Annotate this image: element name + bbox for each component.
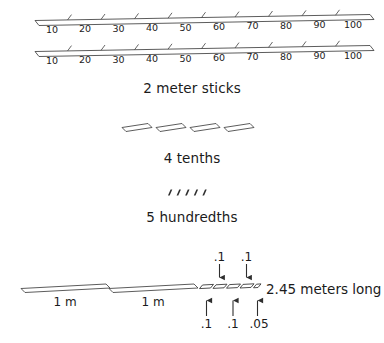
tick-label: 60 [213, 21, 225, 32]
measurement-result-label: 2.45 meters long [266, 281, 381, 297]
measurement-tenth-blocks-shape [200, 284, 262, 289]
hundredths-marks-shape [168, 190, 207, 196]
measurement-arrows-below [207, 301, 258, 317]
tick-label: 70 [246, 51, 258, 62]
arrow-above-label-1: .1 [214, 250, 225, 264]
meter-sticks-caption: 2 meter sticks [0, 80, 384, 96]
tick-label: 20 [79, 54, 91, 65]
measurement-figure: 10 20 30 40 50 60 70 80 90 100 10 20 30 … [0, 0, 384, 343]
tick-label: 10 [46, 55, 58, 66]
measurement-bar-2-shape [109, 284, 198, 293]
measurement-bar-1-label: 1 m [53, 295, 76, 309]
tick-label: 50 [179, 22, 191, 33]
tick-label: 20 [79, 23, 91, 34]
tick-label: 50 [179, 53, 191, 64]
tick-label: 70 [246, 20, 258, 31]
tick-label: 90 [313, 19, 325, 30]
tick-label: 40 [146, 22, 158, 33]
hundredths-caption: 5 hundredths [0, 209, 384, 225]
tick-label: 30 [112, 54, 124, 65]
arrow-below-label-3: .05 [249, 317, 268, 331]
tick-label: 90 [313, 50, 325, 61]
tick-label: 10 [46, 24, 58, 35]
measurement-bar-2-label: 1 m [141, 295, 164, 309]
tick-label: 100 [344, 19, 362, 30]
tick-label: 100 [344, 50, 362, 61]
tenths-caption: 4 tenths [0, 150, 384, 166]
tick-label: 60 [213, 52, 225, 63]
tick-label: 40 [146, 53, 158, 64]
arrow-below-label-2: .1 [227, 317, 238, 331]
tenths-blocks-shape [122, 124, 254, 132]
tick-label: 80 [280, 51, 292, 62]
arrow-above-label-2: .1 [241, 250, 252, 264]
tick-label: 80 [280, 20, 292, 31]
arrow-below-label-1: .1 [201, 317, 212, 331]
tick-label: 30 [112, 23, 124, 34]
measurement-bar-1-shape [21, 284, 110, 293]
measurement-arrows-above [220, 264, 247, 278]
